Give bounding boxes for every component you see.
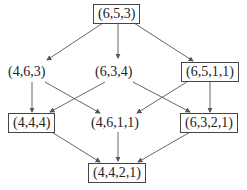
node-653: (6,5,3) (93, 4, 140, 24)
edge-634-6321 (133, 82, 190, 112)
edge-6321-4421 (138, 131, 192, 162)
edge-444-4421 (50, 131, 100, 162)
node-6321: (6,3,2,1) (180, 113, 238, 133)
edge-463-4611 (45, 82, 100, 113)
node-6511: (6,5,1,1) (181, 62, 239, 82)
node-4421: (4,4,2,1) (88, 163, 146, 183)
edge-653-463 (47, 23, 103, 60)
node-634: (6,3,4) (95, 64, 132, 80)
node-444: (4,4,4) (8, 113, 55, 133)
edge-634-444 (50, 82, 105, 112)
node-4611: (4,6,1,1) (91, 115, 139, 131)
edge-653-6511 (134, 23, 193, 61)
node-463: (4,6,3) (8, 64, 45, 80)
edges-layer (0, 0, 247, 190)
